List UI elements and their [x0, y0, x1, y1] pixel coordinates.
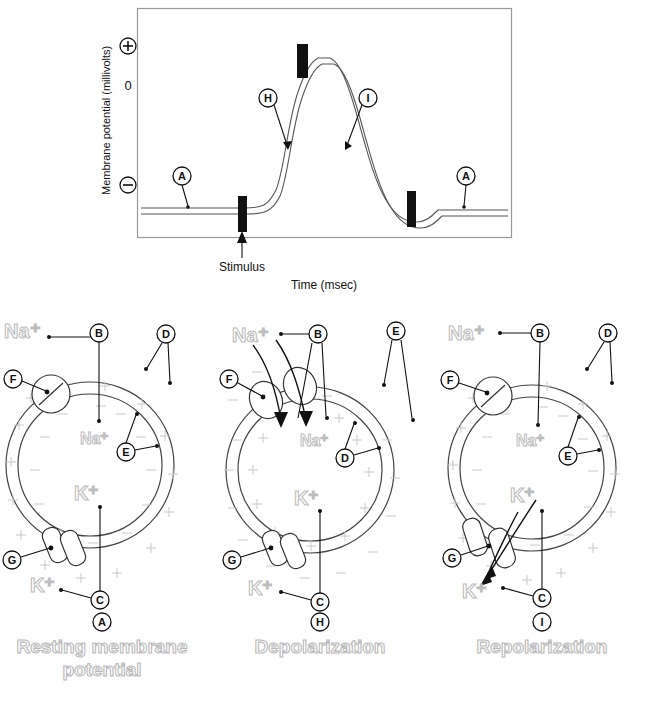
annotation-a-left: A — [173, 167, 191, 209]
membrane-inner-leaflet-depol — [238, 399, 382, 541]
ion-k-inside: K⁺ — [74, 482, 99, 504]
inner-charges-negative — [30, 406, 156, 543]
ion-na-outside: Na⁺ — [4, 320, 41, 342]
inner-charges-negative-repol — [472, 407, 598, 545]
panel-resting: Na⁺ Na⁺ K⁺ K⁺ B D E — [3, 320, 188, 680]
caption-depolarization-line1: Depolarization — [255, 636, 386, 657]
svg-text:E: E — [564, 450, 571, 462]
marker-bar-recovery — [407, 191, 416, 227]
ion-k-outside-depol: K⁺ — [248, 577, 273, 599]
annotation-a-left-letter: A — [178, 170, 186, 182]
ion-k-inside-depol: K⁺ — [294, 487, 319, 509]
ion-na-outside-repol: Na⁺ — [448, 322, 485, 344]
panel-repolarization: Na⁺ Na⁺ K⁺ K⁺ B D E — [441, 322, 620, 657]
sodium-channel-closed-repol[interactable] — [474, 377, 512, 415]
marker-bar-peak — [297, 44, 308, 78]
caption-repolarization: I Repolarization — [477, 613, 608, 657]
label-d-repol: D — [585, 324, 617, 385]
svg-text:D: D — [604, 327, 612, 339]
caption-resting-line2: potential — [62, 659, 141, 680]
caption-resting: A Resting membrane potential — [16, 613, 187, 680]
svg-text:D: D — [162, 328, 170, 340]
potassium-channel-open[interactable] — [461, 516, 518, 570]
y-axis-label: Membrane potential (millivolts) — [100, 46, 112, 195]
potential-trace — [141, 58, 508, 228]
ion-na-inside-repol: Na⁺ — [516, 432, 544, 449]
x-axis-label: Time (msec) — [291, 278, 357, 292]
label-d-resting: D — [144, 325, 175, 385]
caption-repolarization-line1: Repolarization — [477, 636, 608, 657]
membrane-inner-leaflet — [18, 394, 162, 536]
ion-na-inside: Na⁺ — [80, 430, 108, 447]
svg-text:G: G — [228, 554, 237, 566]
y-tick-plus — [120, 38, 136, 54]
svg-text:F: F — [10, 373, 17, 385]
stimulus-label: Stimulus — [219, 260, 265, 274]
svg-text:E: E — [392, 325, 399, 337]
svg-text:F: F — [447, 374, 454, 386]
marker-bar-stimulus — [238, 196, 247, 232]
annotation-a-right-letter: A — [462, 170, 470, 182]
ion-na-outside-depol: Na⁺ — [232, 324, 269, 346]
ion-na-inside-depol: Na⁺ — [300, 432, 328, 449]
svg-text:G: G — [8, 554, 17, 566]
svg-text:C: C — [96, 594, 104, 606]
sodium-channel-closed[interactable] — [32, 375, 70, 413]
ion-k-outside: K⁺ — [30, 574, 55, 596]
potassium-channel-closed-depol[interactable] — [260, 528, 308, 571]
svg-text:C: C — [316, 596, 324, 608]
svg-text:D: D — [341, 452, 349, 464]
annotation-h-letter: H — [264, 92, 272, 104]
svg-text:E: E — [122, 446, 129, 458]
annotation-a-right: A — [457, 167, 475, 209]
svg-text:H: H — [316, 616, 324, 628]
annotation-i: I — [345, 89, 377, 150]
label-e-repol: E — [559, 415, 601, 465]
annotation-i-letter: I — [366, 92, 369, 104]
ion-k-inside-repol: K⁺ — [510, 484, 535, 506]
label-d-depol: D — [336, 421, 381, 467]
svg-text:A: A — [98, 616, 106, 628]
svg-text:I: I — [540, 616, 543, 628]
panel-depolarization: Na⁺ Na⁺ K⁺ K⁺ B E D — [220, 322, 415, 657]
caption-resting-line1: Resting membrane — [16, 636, 187, 657]
membrane-outer-leaflet — [6, 382, 174, 548]
ion-k-outside-repol: K⁺ — [462, 580, 487, 602]
label-b-repol: B — [498, 324, 549, 427]
sodium-influx-arrowhead-1 — [274, 412, 288, 428]
svg-text:F: F — [226, 373, 233, 385]
action-potential-graph: Membrane potential (millivolts) 0 A — [100, 9, 512, 293]
svg-text:C: C — [538, 592, 546, 604]
sodium-influx-arrowhead-2 — [299, 411, 313, 427]
label-g-repol: G — [443, 544, 491, 567]
svg-text:B: B — [314, 328, 322, 340]
caption-depolarization: H Depolarization — [255, 613, 386, 657]
svg-text:G: G — [448, 552, 457, 564]
graph-frame — [138, 9, 512, 238]
svg-text:B: B — [536, 327, 544, 339]
membrane-inner-leaflet-repol — [460, 397, 604, 539]
figure-canvas: Membrane potential (millivolts) 0 A — [0, 0, 655, 720]
label-e-depol: E — [382, 322, 415, 422]
label-g-depol: G — [223, 546, 273, 569]
y-tick-minus — [120, 177, 136, 193]
svg-text:B: B — [95, 327, 103, 339]
y-tick-zero: 0 — [124, 78, 131, 93]
